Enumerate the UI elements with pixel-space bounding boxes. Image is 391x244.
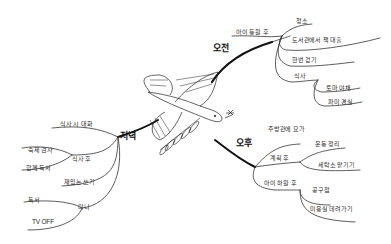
- node-after-meal-item-0: 숙제 검사: [28, 146, 53, 153]
- node-after-meal-item-1: 함께 독서: [26, 164, 51, 171]
- node-kid-home: 아이 하원 후: [264, 179, 296, 186]
- node-morning-item-0: 청소: [296, 17, 308, 24]
- node-kid-home-item-1: 미용실 데려가기: [310, 205, 352, 212]
- node-before-bed-item-0: 독서: [28, 196, 40, 203]
- node-plan-item-0: 운동 정리: [315, 140, 340, 147]
- node-before-bed-item-1: TV OFF: [32, 218, 54, 225]
- node-kid-school: 아이 등원 후: [236, 28, 268, 35]
- node-morning-item-3: 식사: [294, 72, 306, 79]
- branch-label-afternoon: 오후: [236, 140, 252, 147]
- branch-label-evening: 저녁: [120, 133, 136, 140]
- node-yoga: 주방관에 요가: [268, 125, 305, 132]
- node-diary: 재밌는 쓰기: [64, 178, 95, 185]
- branch-label-morning: 오전: [213, 45, 229, 52]
- node-morning-item-2: 한번 걷기: [292, 56, 317, 63]
- node-plan: 계획 후: [270, 154, 289, 161]
- node-morning-sub-1: 파미 경실: [328, 98, 353, 105]
- node-kid-home-item-0: 공구점: [312, 186, 329, 193]
- node-plan-item-1: 세탁소 맡기기: [318, 161, 355, 168]
- node-meal-time: 식사 시 대화: [60, 120, 92, 127]
- node-morning-item-1: 도서관에서 책 대출: [292, 36, 342, 43]
- node-morning-sub-0: 토마 야채: [326, 84, 351, 91]
- node-after-meal: 식사 후: [72, 155, 91, 162]
- node-before-bed: 미니: [78, 203, 90, 210]
